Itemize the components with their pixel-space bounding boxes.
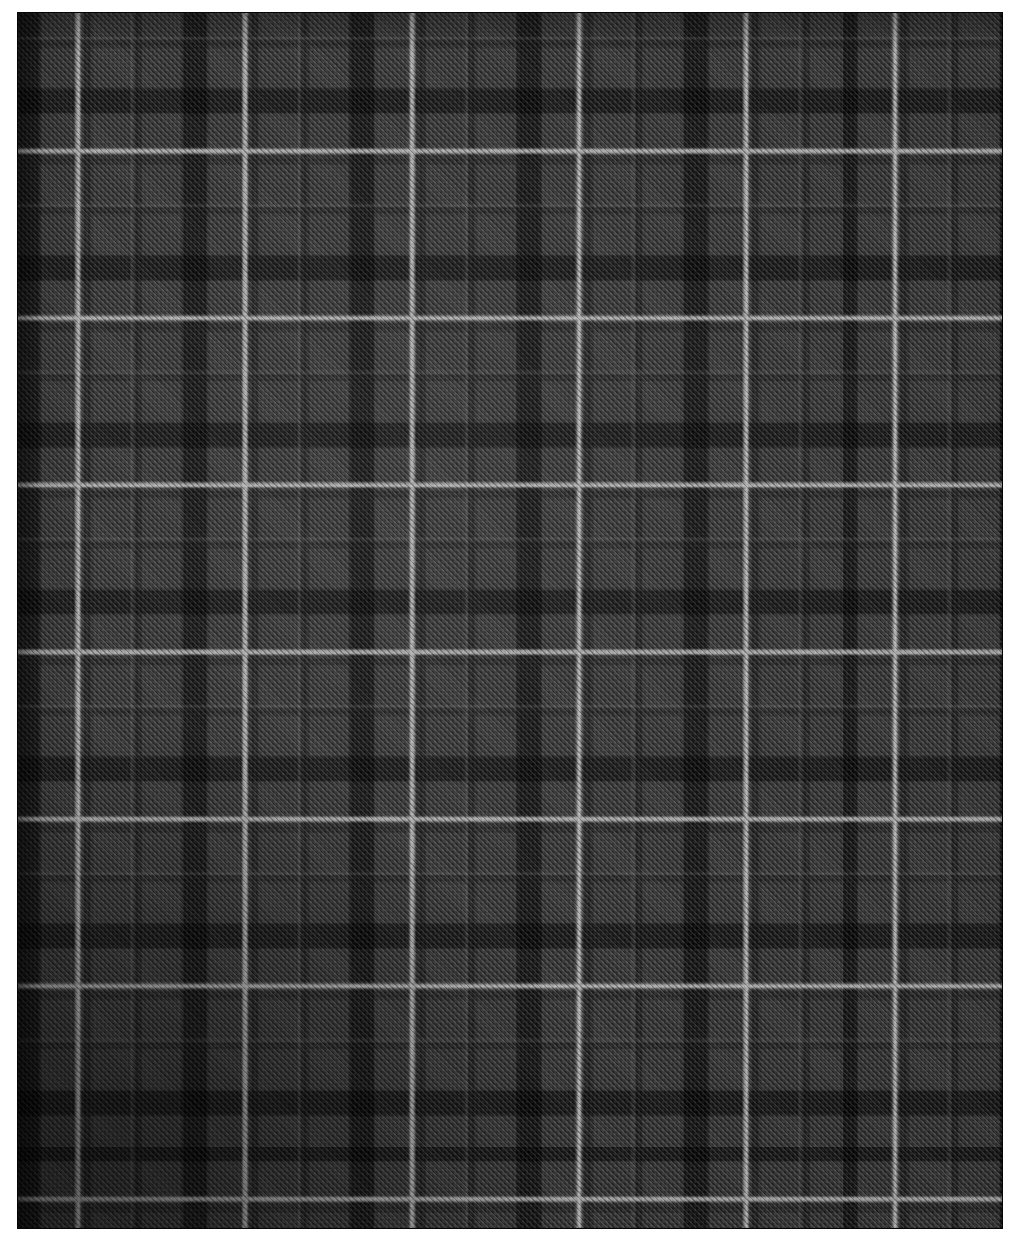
swatch-description: Close-up photograph of a dark charcoal a… (0, 0, 1, 1)
swatch-canvas: Close-up photograph of a dark charcoal a… (0, 0, 1017, 1242)
twill-shadow-layer (18, 13, 1002, 1228)
fabric-swatch (18, 13, 1002, 1228)
fabric-grain-layer (18, 13, 1002, 1228)
weft-stripe-layer (18, 13, 1002, 1228)
lighting-vignette-layer (18, 13, 1002, 1228)
vertical-overcheck-layer (18, 13, 1002, 1228)
warp-stripe-layer (18, 13, 1002, 1228)
corner-shadow-layer (18, 13, 1002, 1228)
check-block-highlight-layer (18, 13, 1002, 1228)
edge-shadow-layer (18, 13, 1002, 1228)
fabric-ground-layer (18, 13, 1002, 1228)
horizontal-overcheck-layer (18, 13, 1002, 1228)
vertical-guard-line-layer (18, 13, 1002, 1228)
houndstooth-texture-layer (18, 13, 1002, 1228)
horizontal-guard-line-layer (18, 13, 1002, 1228)
twill-highlight-layer (18, 13, 1002, 1228)
